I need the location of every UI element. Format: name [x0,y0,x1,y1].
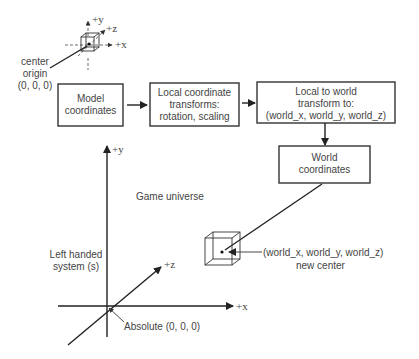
svg-text:World: World [312,152,338,163]
model-coordinates-box: Model coordinates [58,84,123,126]
local-transforms-box: Local coordinate transforms: rotation, s… [150,83,239,126]
small-z-label: +z [106,22,117,34]
center-origin-pointer [50,46,87,68]
world-axes: +y +z +x [58,143,248,345]
svg-text:coordinates: coordinates [299,164,351,175]
svg-text:transforms:: transforms: [169,99,219,110]
new-center-label: (world_x, world_y, world_z) new center [263,247,383,271]
small-x-label: +x [115,38,127,50]
absolute-origin-label: Absolute (0, 0, 0) [124,321,200,332]
svg-text:coordinates: coordinates [65,105,117,116]
svg-text:system (s): system (s) [53,261,99,272]
svg-text:Local to world: Local to world [295,86,357,97]
left-handed-label: Left handed system (s) [50,249,103,272]
svg-text:(world_x, world_y, world_z): (world_x, world_y, world_z) [266,110,386,121]
svg-text:transform to:: transform to: [298,98,354,109]
y-axis-label: +y [112,143,124,155]
diagram-canvas: +y +z +x center origin (0, 0, 0) Model c… [0,0,419,359]
small-local-axes: +y +z +x [50,13,127,70]
svg-text:new center: new center [296,260,346,271]
svg-text:Left handed: Left handed [50,249,103,260]
game-universe-label: Game universe [136,191,204,202]
small-z-axis [78,30,105,56]
svg-text:origin: origin [23,68,47,79]
absolute-origin-pointer [109,308,124,322]
svg-text:center: center [21,56,49,67]
svg-text:rotation, scaling: rotation, scaling [159,111,229,122]
z-axis-label: +z [164,258,175,270]
center-origin-label: center origin (0, 0, 0) [18,56,52,91]
svg-text:(world_x, world_y, world_z): (world_x, world_y, world_z) [263,247,383,258]
svg-text:(0, 0, 0): (0, 0, 0) [18,80,52,91]
svg-text:Local coordinate: Local coordinate [158,87,232,98]
world-coordinates-box: World coordinates [279,146,370,183]
x-axis-label: +x [236,300,248,312]
world-cube-icon [205,232,240,265]
small-y-label: +y [92,13,104,25]
local-to-world-box: Local to world transform to: (world_x, w… [257,82,395,123]
svg-text:Model: Model [77,93,104,104]
